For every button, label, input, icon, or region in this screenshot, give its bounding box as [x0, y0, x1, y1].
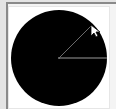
center-point [58, 57, 60, 59]
color-wheel[interactable] [0, 0, 116, 109]
